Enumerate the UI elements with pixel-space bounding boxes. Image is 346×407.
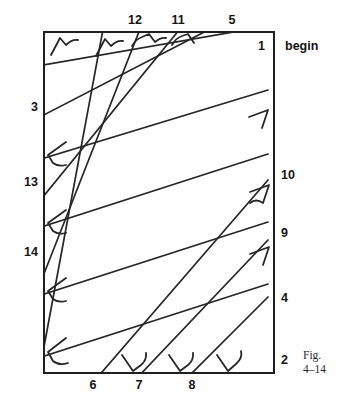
left-label-3: 3 (31, 101, 38, 114)
figure-caption-line-1: Fig. (303, 348, 326, 362)
arrowheads-left-group (48, 142, 68, 364)
bottom-label-6: 6 (90, 379, 97, 392)
lattice-line-ne (186, 297, 268, 379)
diagram-frame (44, 32, 274, 373)
lattice-line-ne (96, 180, 268, 379)
lattice-lines-group (38, 24, 268, 379)
top-label-5: 5 (229, 14, 236, 27)
figure-container: 12 11 5 6 7 8 3 13 14 1 10 9 4 2 begin F… (0, 0, 346, 407)
arrowheads-bottom-group (122, 351, 241, 371)
arrowhead-down-right-icon (169, 353, 193, 371)
right-label-1: 1 (258, 40, 265, 53)
top-label-12: 12 (128, 14, 142, 27)
lattice-diagram (0, 0, 346, 407)
arrowhead-up-right-icon (249, 110, 268, 128)
arrowhead-up-right-icon (250, 185, 269, 203)
right-label-4: 4 (281, 292, 288, 305)
lattice-line-nw (38, 284, 268, 358)
left-label-13: 13 (24, 176, 38, 189)
arrowhead-up-icon (51, 38, 78, 55)
arrowhead-down-right-icon (217, 351, 241, 371)
lattice-line-nw (38, 222, 268, 296)
left-label-14: 14 (24, 246, 38, 259)
begin-label: begin (285, 39, 318, 53)
bottom-label-8: 8 (189, 379, 196, 392)
right-label-2: 2 (281, 354, 288, 367)
arrowhead-down-right-icon (122, 353, 146, 371)
right-label-10: 10 (281, 169, 295, 182)
top-label-11: 11 (171, 14, 184, 27)
bottom-label-7: 7 (136, 379, 143, 392)
lattice-line-ne (38, 24, 104, 379)
lattice-line-ne (38, 24, 184, 203)
figure-caption-line-2: 4–14 (303, 362, 326, 376)
figure-caption: Fig. 4–14 (303, 348, 326, 377)
right-label-9: 9 (281, 227, 288, 240)
